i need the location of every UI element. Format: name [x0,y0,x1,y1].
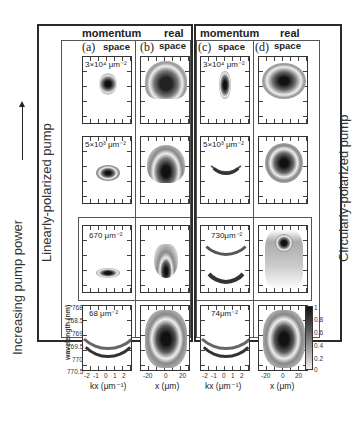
panel-label-a: (a) [82,40,95,55]
colorbar-tick: 1 [314,304,318,311]
kx-axis-label: kx (μm⁻¹) [205,381,241,391]
panel-a-row2: 5×10³ μm⁻² [82,136,132,204]
colorbar-tick: 0.4 [314,342,323,349]
density-label: 5×10³ μm⁻² [85,140,126,149]
panel-b-row1 [140,56,190,124]
density-label: 74μm⁻² [211,309,238,318]
panel-c-row4: 74μm⁻² [200,305,250,371]
x-tick: 0 [281,372,285,379]
header-momentum-linear: momentum [82,27,141,39]
colorbar-tick: 0.6 [314,329,323,336]
increasing-arrow-icon [22,105,23,160]
wavelength-tick: 770.5 [67,368,83,375]
panel-d-row1 [258,56,308,124]
wavelength-axis-label: wavelength (nm) [64,305,71,360]
space-label-c: space [218,41,245,52]
panel-c-row2: 5×10³ μm⁻² [200,136,250,204]
x-tick: 20 [179,372,186,379]
kx-axis-label: kx (μm⁻¹) [90,381,126,391]
panel-label-d: (d) [255,40,269,55]
header-real-linear: real [164,27,184,39]
panel-a-row1: 3×10⁴ μm⁻² [82,56,132,124]
kx-tick: 0 [222,372,226,379]
colorbar-tick: 0.2 [314,355,323,362]
wavelength-tick: 769.5 [67,343,83,350]
kx-tick: 2 [122,372,126,379]
panel-c-row3: 730μm⁻² [200,225,250,293]
kx-tick: 0 [104,372,108,379]
header-real-circular: real [280,27,300,39]
panel-d-row2 [258,136,308,204]
colorbar-tick: 0.8 [314,316,323,323]
kx-tick: -1 [211,372,217,379]
linearly-polarized-label: Linearly-polarized pump [39,123,54,262]
space-label-b: space [159,40,186,51]
x-tick: 0 [164,372,168,379]
x-tick: -20 [143,372,152,379]
x-tick: -20 [261,372,270,379]
kx-tick: 1 [231,372,235,379]
density-label: 5×10³ μm⁻² [203,140,244,149]
x-axis-label: x (μm) [270,381,294,391]
density-label: 670 μm⁻² [89,231,123,240]
kx-tick: -2 [84,372,90,379]
wavelength-tick: 768.5 [67,317,83,324]
kx-tick: 1 [113,372,117,379]
space-label-d: space [274,40,301,51]
wavelength-tick: 770 [72,356,83,363]
density-label: 68 μm⁻² [89,309,118,318]
x-tick: 20 [295,372,302,379]
colorbar [305,306,313,370]
wavelength-tick: 768 [72,304,83,311]
kx-tick: -1 [93,372,99,379]
circularly-polarized-label: Circularly-polarized pump [336,115,351,262]
kx-tick: 2 [240,372,244,379]
kx-tick: -2 [202,372,208,379]
density-label: 3×10⁴ μm⁻² [203,60,245,69]
density-label: 3×10⁴ μm⁻² [85,60,127,69]
panel-d-row3 [258,225,308,293]
density-label: 730μm⁻² [211,231,242,240]
increasing-pump-power-label: Increasing pump power [10,220,25,355]
x-axis-label: x (μm) [155,381,179,391]
panel-b-row2 [140,136,190,204]
header-momentum-circular: momentum [200,27,259,39]
panel-label-b: (b) [140,40,154,55]
colorbar-tick: 0 [314,366,318,373]
panel-d-row4 [258,305,308,371]
arrow-head-icon [19,101,25,107]
panel-b-row4 [140,305,190,371]
panel-label-c: (c) [198,40,211,55]
panel-c-row1: 3×10⁴ μm⁻² [200,56,250,124]
space-label-a: space [103,41,130,52]
panel-b-row3 [140,225,190,293]
panel-a-row3: 670 μm⁻² [82,225,132,293]
wavelength-tick: 769 [72,330,83,337]
panel-a-row4: 68 μm⁻² [82,305,132,371]
